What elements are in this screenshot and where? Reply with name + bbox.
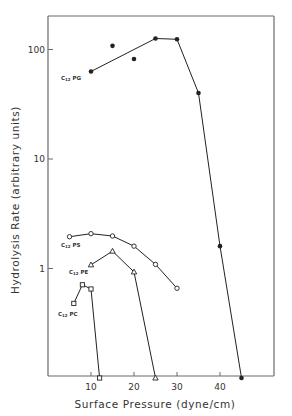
series-label: C12 PG [61, 75, 82, 82]
marker-filled-circle [218, 244, 223, 249]
marker-open-square [89, 287, 93, 291]
marker-filled-circle [239, 376, 244, 381]
marker-open-triangle [88, 262, 93, 267]
x-axis-title: Surface Pressure (dyne/cm) [75, 398, 236, 410]
marker-open-circle [153, 262, 157, 266]
series-label: C12 PE [69, 269, 89, 276]
y-tick-label: 10 [34, 154, 46, 164]
marker-filled-circle [153, 36, 158, 41]
series-c12-pe [88, 248, 158, 380]
series-line [74, 285, 100, 378]
hydrolysis-rate-chart: 10203040 110100 C12 PGC12 PSC12 PEC12 PC… [0, 0, 292, 416]
x-tick-label: 40 [214, 382, 226, 392]
y-axis-ticks: 110100 [28, 45, 53, 274]
series-label: C12 PS [61, 242, 81, 249]
marker-filled-circle [89, 69, 94, 74]
marker-filled-circle [132, 57, 137, 62]
marker-open-circle [132, 244, 136, 248]
plot-frame [48, 16, 274, 376]
marker-filled-circle [110, 44, 115, 49]
marker-open-circle [67, 235, 71, 239]
series-layer [67, 36, 244, 380]
series-c12-pg [89, 36, 244, 380]
marker-open-circle [110, 234, 114, 238]
marker-open-circle [89, 231, 93, 235]
marker-open-square [80, 283, 84, 287]
x-tick-label: 20 [128, 382, 140, 392]
y-axis-title: Hydrolysis Rate (arbitrary units) [9, 106, 21, 294]
marker-filled-circle [175, 37, 180, 42]
marker-open-square [98, 376, 102, 380]
x-tick-label: 10 [85, 382, 97, 392]
marker-open-circle [175, 286, 179, 290]
marker-open-square [72, 301, 76, 305]
series-labels: C12 PGC12 PSC12 PEC12 PC [58, 75, 89, 318]
marker-filled-circle [196, 91, 201, 96]
y-tick-label: 100 [28, 45, 45, 55]
series-line [91, 251, 156, 378]
y-tick-label: 1 [39, 264, 45, 274]
x-tick-label: 30 [171, 382, 183, 392]
series-label: C12 PC [58, 311, 78, 318]
series-c12-pc [72, 283, 102, 380]
marker-open-triangle [110, 248, 115, 253]
series-line [91, 39, 242, 378]
